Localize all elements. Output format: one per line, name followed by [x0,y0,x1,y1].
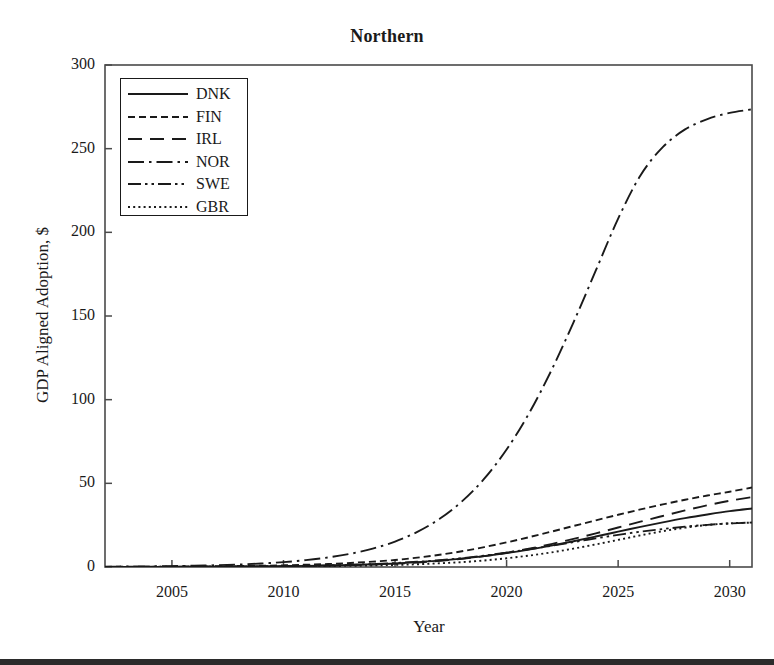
legend-item-gbr[interactable]: GBR [121,195,249,218]
legend-item-irl[interactable]: IRL [121,128,249,151]
legend-label: FIN [196,109,222,125]
legend-item-swe[interactable]: SWE [121,173,249,196]
x-tick-label: 2030 [695,583,765,601]
y-tick-label: 250 [49,139,95,157]
legend-line-sample-swe [127,174,189,194]
y-tick-label: 100 [49,390,95,408]
legend-label: DNK [196,86,231,102]
legend-item-fin[interactable]: FIN [121,105,249,128]
x-tick-label: 2010 [248,583,318,601]
legend-item-nor[interactable]: NOR [121,150,249,173]
legend-label: GBR [196,199,229,215]
legend: DNKFINIRLNORSWEGBR [120,78,248,216]
y-tick-label: 0 [49,557,95,575]
y-tick-label: 300 [49,55,95,73]
plot-canvas [0,0,774,665]
y-tick-label: 200 [49,222,95,240]
legend-label: NOR [196,154,230,170]
legend-item-dnk[interactable]: DNK [121,83,249,106]
bottom-strip [0,659,774,665]
x-tick-label: 2005 [137,583,207,601]
legend-line-sample-dnk [127,84,189,104]
x-tick-label: 2020 [472,583,542,601]
y-tick-label: 150 [49,306,95,324]
chart-figure: Northern GDP Aligned Adoption, $ Year DN… [0,0,774,665]
series-line-swe [105,522,752,566]
legend-line-sample-irl [127,129,189,149]
x-tick-label: 2025 [583,583,653,601]
legend-line-sample-nor [127,152,189,172]
series-line-fin [105,488,752,567]
x-tick-label: 2015 [360,583,430,601]
legend-line-sample-gbr [127,197,189,217]
legend-line-sample-fin [127,107,189,127]
legend-label: SWE [196,176,230,192]
y-tick-label: 50 [49,473,95,491]
legend-label: IRL [196,131,222,147]
